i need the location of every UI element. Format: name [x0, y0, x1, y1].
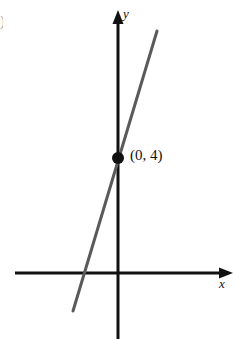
point-coordinate-label: (0, 4) [130, 148, 163, 163]
x-axis-label: x [219, 277, 225, 290]
y-intercept-point [112, 152, 124, 164]
plotted-line [73, 31, 157, 311]
y-axis-arrowhead [113, 10, 124, 24]
graph-figure: ) y x (0, 4) [0, 0, 247, 339]
coordinate-plane-graphic [0, 0, 247, 339]
y-axis-label: y [123, 7, 129, 20]
